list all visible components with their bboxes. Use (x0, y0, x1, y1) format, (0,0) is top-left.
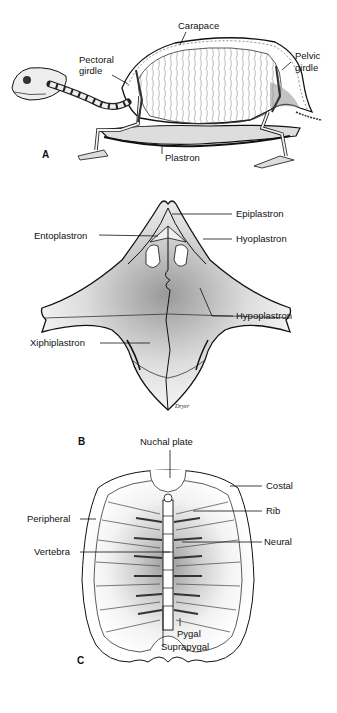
panel-letter-a: A (42, 149, 49, 160)
label-pelvic-girdle-line1: Pelvic (295, 50, 320, 61)
label-pelvic-girdle-line2: girdle (295, 62, 318, 73)
panel-a-lateral-skeleton: Carapace Pectoral girdle Pelvic girdle P… (0, 0, 337, 180)
label-suprapygal: Suprapygal (161, 641, 209, 652)
illustrator-signature: Dryer (174, 403, 190, 409)
panel-c-carapace: Nuchal plate Costal Rib Peripheral Neura… (0, 440, 337, 713)
label-neural: Neural (264, 536, 292, 547)
label-epiplastron: Epiplastron (236, 208, 284, 219)
label-plastron: Plastron (165, 152, 200, 163)
label-rib: Rib (266, 505, 280, 516)
panel-b-plastron: Dryer Epiplastron Entoplastron Hyoplastr… (0, 190, 337, 440)
label-costal: Costal (266, 480, 293, 491)
label-pygal: Pygal (177, 628, 201, 639)
label-vertebra: Vertebra (34, 546, 70, 557)
label-pectoral-girdle-line2: girdle (79, 65, 102, 76)
label-xiphiplastron: Xiphiplastron (30, 337, 85, 348)
label-hyoplastron: Hyoplastron (236, 233, 287, 244)
label-entoplastron: Entoplastron (34, 230, 87, 241)
label-hypoplastron: Hypoplastron (236, 310, 292, 321)
panel-letter-c: C (77, 655, 84, 666)
label-nuchal-plate: Nuchal plate (140, 436, 193, 447)
label-pectoral-girdle-line1: Pectoral (79, 54, 114, 65)
label-carapace: Carapace (178, 20, 219, 31)
label-peripheral: Peripheral (27, 513, 70, 524)
